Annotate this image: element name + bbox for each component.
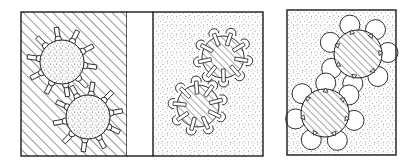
particle-core — [301, 89, 349, 137]
panel-1 — [21, 12, 127, 156]
ligand-stem — [173, 102, 186, 107]
particle-dispersion-figure — [0, 0, 416, 166]
panel-3 — [286, 10, 398, 155]
particle-core — [334, 30, 382, 78]
blank-strip — [127, 12, 153, 156]
ligand-stem — [221, 69, 225, 82]
particle-core — [66, 95, 110, 139]
panel-2 — [153, 12, 263, 156]
ligand-stem — [194, 81, 199, 94]
particle-core — [40, 40, 84, 84]
